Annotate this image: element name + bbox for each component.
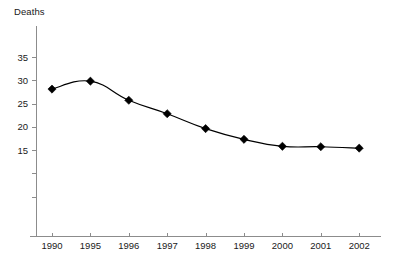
x-tick-label: 1990 bbox=[41, 240, 62, 251]
series-markers bbox=[48, 77, 363, 152]
y-tick-label: 35 bbox=[17, 52, 28, 63]
data-point-marker bbox=[125, 96, 133, 104]
y-tick-label: 30 bbox=[17, 75, 28, 86]
y-tick-label: 20 bbox=[17, 121, 28, 132]
chart-container: Deaths 3530252015 1990199519961997199819… bbox=[0, 0, 393, 268]
y-tick-label: 25 bbox=[17, 98, 28, 109]
x-tick-label: 1995 bbox=[80, 240, 101, 251]
data-point-marker bbox=[202, 125, 210, 133]
x-tick-label: 1997 bbox=[157, 240, 178, 251]
x-tick-label: 1998 bbox=[195, 240, 216, 251]
data-point-marker bbox=[278, 142, 286, 150]
x-tick-label: 2000 bbox=[272, 240, 293, 251]
y-tick-label: 15 bbox=[17, 145, 28, 156]
data-point-marker bbox=[317, 143, 325, 151]
data-point-marker bbox=[163, 110, 171, 118]
data-point-marker bbox=[355, 144, 363, 152]
line-chart-plot: 3530252015 19901995199619971998199920002… bbox=[0, 0, 393, 268]
x-tick-label: 1999 bbox=[233, 240, 254, 251]
x-tick-label: 1996 bbox=[118, 240, 139, 251]
y-tick-group: 3530252015 bbox=[17, 52, 36, 198]
data-point-marker bbox=[86, 77, 94, 85]
x-tick-label: 2001 bbox=[310, 240, 331, 251]
series-line-deaths bbox=[52, 81, 359, 148]
x-tick-group: 199019951996199719981999200020012002 bbox=[41, 233, 369, 251]
data-point-marker bbox=[240, 135, 248, 143]
x-tick-label: 2002 bbox=[349, 240, 370, 251]
data-point-marker bbox=[48, 85, 56, 93]
